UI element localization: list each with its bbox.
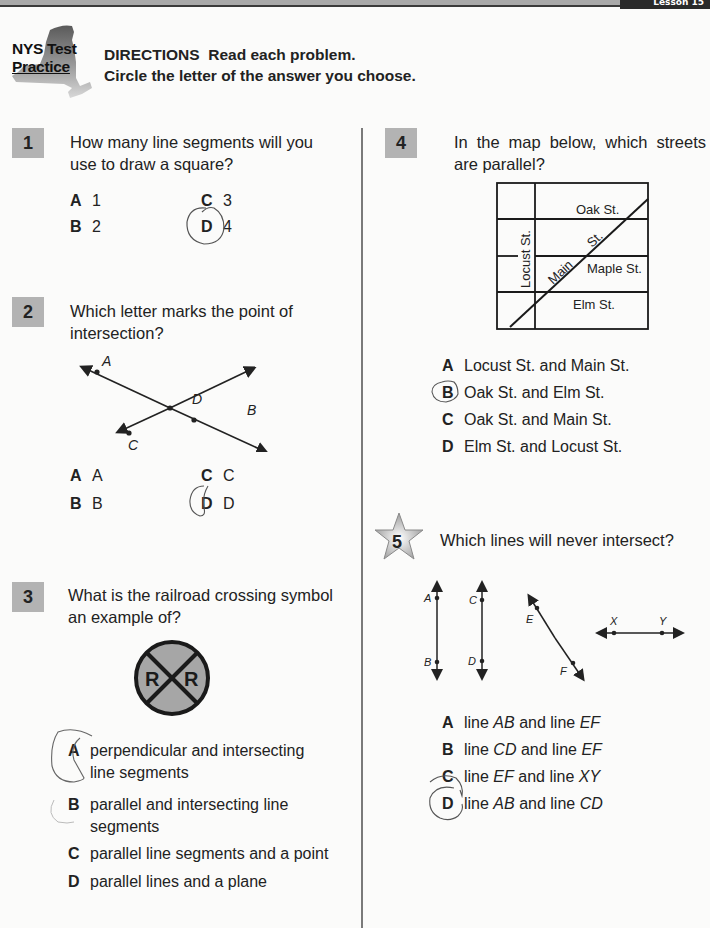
svg-text:C: C: [469, 594, 477, 606]
four-lines-figure: A B C D E F X Y: [420, 578, 690, 683]
question-number-3: 3: [12, 582, 44, 612]
question-2-text: Which letter marks the point of intersec…: [70, 300, 330, 344]
directions-label: DIRECTIONS: [104, 46, 200, 63]
q1-option-c[interactable]: C3: [201, 190, 232, 212]
svg-text:B: B: [247, 402, 256, 418]
page-top-bar: [0, 0, 710, 7]
svg-text:A: A: [101, 353, 111, 369]
svg-text:Y: Y: [659, 615, 667, 627]
q3-option-d[interactable]: Dparallel lines and a plane: [68, 871, 360, 893]
railroad-crossing-sign: R R: [132, 638, 212, 718]
question-4-text: In the map below, which streets are para…: [454, 131, 706, 175]
svg-text:X: X: [609, 615, 618, 627]
intersecting-lines-figure: A B C D: [70, 352, 280, 452]
question-5-text: Which lines will never intersect?: [440, 529, 710, 551]
svg-text:F: F: [560, 665, 568, 677]
q1-option-d[interactable]: D4: [201, 216, 232, 238]
svg-text:R: R: [184, 668, 199, 690]
nys-test-practice-logo: NYS Test Practice: [12, 40, 77, 76]
q5-option-a[interactable]: Aline AB and line EF: [442, 712, 600, 734]
svg-text:E: E: [526, 613, 534, 625]
svg-text:C: C: [128, 437, 139, 452]
q3-option-b[interactable]: Bparallel and intersecting line segments: [68, 794, 310, 838]
q4-option-b[interactable]: BOak St. and Elm St.: [442, 382, 605, 404]
question-1-text: How many line segments will you use to d…: [70, 131, 330, 175]
svg-text:A: A: [423, 592, 431, 604]
q5-option-b[interactable]: Bline CD and line EF: [442, 739, 602, 761]
q5-option-d[interactable]: Dline AB and line CD: [442, 793, 603, 815]
q2-option-c[interactable]: CC: [201, 465, 235, 487]
svg-text:St.: St.: [584, 228, 606, 250]
directions: DIRECTIONS Read each problem. Circle the…: [104, 44, 416, 86]
q5-option-c[interactable]: Cline EF and line XY: [442, 766, 600, 788]
q3-option-c[interactable]: Cparallel line segments and a point: [68, 843, 360, 865]
q4-option-c[interactable]: COak St. and Main St.: [442, 409, 612, 431]
question-number-2: 2: [12, 297, 44, 327]
street-map: Oak St. Maple St. Elm St. Locust St. Mai…: [495, 181, 651, 333]
svg-text:D: D: [468, 655, 476, 667]
q2-option-d[interactable]: DD: [201, 493, 235, 515]
svg-text:Locust St.: Locust St.: [518, 230, 533, 288]
question-3-text: What is the railroad crossing symbol an …: [68, 584, 353, 628]
svg-text:Maple St.: Maple St.: [587, 261, 642, 276]
svg-text:Oak St.: Oak St.: [576, 202, 619, 217]
question-number-1: 1: [12, 128, 44, 158]
svg-text:Main: Main: [545, 257, 576, 287]
svg-text:Elm St.: Elm St.: [573, 297, 615, 312]
q2-option-a[interactable]: AA: [70, 465, 103, 487]
q4-option-a[interactable]: ALocust St. and Main St.: [442, 355, 629, 377]
svg-text:5: 5: [392, 532, 402, 552]
svg-text:D: D: [192, 391, 202, 407]
column-divider: [361, 128, 363, 928]
lesson-tab: Lesson 15: [620, 0, 710, 9]
q3-option-a[interactable]: Aperpendicular and intersecting line seg…: [68, 740, 330, 784]
svg-text:B: B: [424, 656, 431, 668]
question-number-4: 4: [385, 128, 417, 158]
svg-text:R: R: [145, 668, 160, 690]
q2-option-b[interactable]: BB: [70, 493, 103, 515]
q4-option-d[interactable]: DElm St. and Locust St.: [442, 436, 622, 458]
q1-option-a[interactable]: A1: [70, 190, 101, 212]
q1-option-b[interactable]: B2: [70, 216, 101, 238]
star-badge-5: 5: [373, 512, 425, 562]
